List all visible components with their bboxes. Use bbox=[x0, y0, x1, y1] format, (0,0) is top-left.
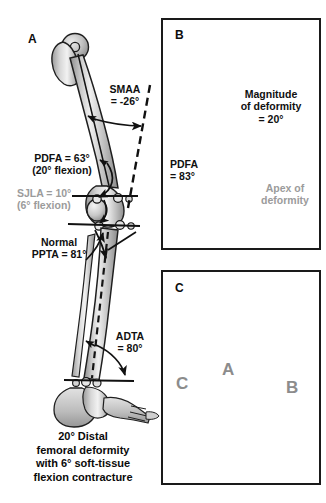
marker-c-label: C bbox=[176, 374, 188, 394]
marker-a-label: A bbox=[222, 360, 234, 380]
ppta-label-line-2: PPTA = 81° bbox=[16, 248, 102, 260]
pdfa-label-line-2: (20° flexion) bbox=[16, 164, 108, 176]
caption-line-4: flexion contracture bbox=[8, 471, 158, 485]
adta-label: ADTA = 80° bbox=[105, 330, 155, 355]
ppta-label: Normal PPTA = 81° bbox=[16, 236, 102, 261]
marker-b-label: B bbox=[286, 378, 298, 398]
panel-letter-a: A bbox=[28, 32, 37, 46]
apex-label-line-1: Apex of bbox=[252, 182, 318, 194]
sjla-label-line-2: (6° flexion) bbox=[17, 199, 109, 211]
caption-line-3: with 6° soft-tissue bbox=[8, 457, 158, 471]
pdfa-label-line-1: PDFA = 63° bbox=[16, 152, 108, 164]
apex-label: Apex of deformity bbox=[252, 182, 318, 207]
pdfa-b-label-line-1: PDFA bbox=[170, 158, 226, 170]
panel-letter-c: C bbox=[175, 281, 184, 295]
adta-joint-line bbox=[64, 380, 134, 381]
figure-root: A B C SMAA = -26° PDFA = 63° (20° flexio… bbox=[0, 0, 326, 503]
pdfa-b-label: PDFA = 83° bbox=[170, 158, 226, 183]
ppta-label-line-1: Normal bbox=[16, 236, 102, 248]
magnitude-label-line-2: of deformity bbox=[228, 100, 314, 112]
magnitude-label-line-1: Magnitude bbox=[228, 88, 314, 100]
smaa-label: SMAA = -26° bbox=[95, 83, 155, 108]
adta-label-line-2: = 80° bbox=[105, 342, 155, 354]
pdfa-b-label-line-2: = 83° bbox=[170, 170, 226, 182]
caption-line-2: femoral deformity bbox=[8, 444, 158, 458]
panel-a-caption: 20° Distal femoral deformity with 6° sof… bbox=[8, 430, 158, 484]
apex-label-line-2: deformity bbox=[252, 194, 318, 206]
adta-label-line-1: ADTA bbox=[105, 330, 155, 342]
sjla-label-line-1: SJLA = 10° bbox=[17, 187, 109, 199]
pdfa-label: PDFA = 63° (20° flexion) bbox=[16, 152, 108, 177]
panel-b-frame bbox=[161, 18, 321, 250]
panel-letter-b: B bbox=[175, 28, 184, 42]
smaa-label-line-1: SMAA bbox=[95, 83, 155, 95]
magnitude-label-line-3: = 20° bbox=[228, 113, 314, 125]
magnitude-label: Magnitude of deformity = 20° bbox=[228, 88, 314, 125]
caption-line-1: 20° Distal bbox=[8, 430, 158, 444]
sjla-label: SJLA = 10° (6° flexion) bbox=[17, 187, 109, 212]
smaa-label-line-2: = -26° bbox=[95, 95, 155, 107]
